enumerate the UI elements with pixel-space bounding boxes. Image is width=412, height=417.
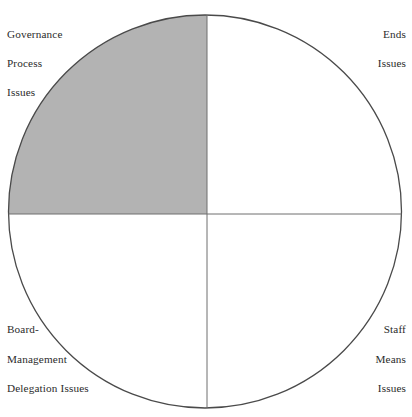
quadrant-label-top-left-line-1: Governance	[7, 27, 63, 42]
quadrant-label-top-right: Ends Issues	[378, 12, 406, 85]
quadrant-label-top-left: Governance Process Issues	[7, 12, 63, 114]
quadrant-label-top-left-line-2: Process	[7, 56, 63, 71]
quadrant-label-bottom-left-line-3: Delegation Issues	[7, 381, 89, 396]
quadrant-label-top-right-line-1: Ends	[378, 27, 406, 42]
quadrant-label-bottom-right-line-1: Staff	[375, 322, 406, 337]
quadrant-label-top-left-line-3: Issues	[7, 85, 63, 100]
quadrant-label-bottom-right-line-2: Means	[375, 352, 406, 367]
quadrant-diagram: Governance Process Issues Ends Issues Bo…	[0, 0, 412, 417]
quadrant-label-bottom-left: Board- Management Delegation Issues	[7, 308, 89, 410]
quadrant-label-bottom-right-line-3: Issues	[375, 381, 406, 396]
quadrant-label-bottom-right: Staff Means Issues	[375, 308, 406, 410]
quadrant-label-top-right-line-2: Issues	[378, 56, 406, 71]
quadrant-label-bottom-left-line-2: Management	[7, 352, 89, 367]
quadrant-label-bottom-left-line-1: Board-	[7, 322, 89, 337]
